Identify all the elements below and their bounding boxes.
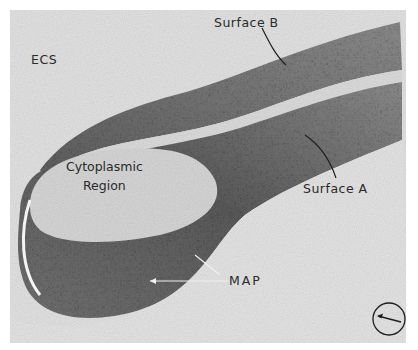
- cytoplasmic-label-line1: Cytoplasmic: [66, 157, 143, 176]
- cytoplasmic-label: Cytoplasmic Region: [66, 157, 143, 195]
- surface-a-label: Surface A: [303, 181, 368, 196]
- ecs-label: ECS: [31, 52, 57, 67]
- micrograph-figure: ECS Surface B Cytoplasmic Region Surface…: [0, 0, 418, 350]
- cytoplasmic-label-line2: Region: [66, 176, 143, 195]
- surface-b-label: Surface B: [214, 15, 279, 30]
- map-label: MAP: [229, 273, 262, 288]
- micrograph-image: [0, 0, 418, 350]
